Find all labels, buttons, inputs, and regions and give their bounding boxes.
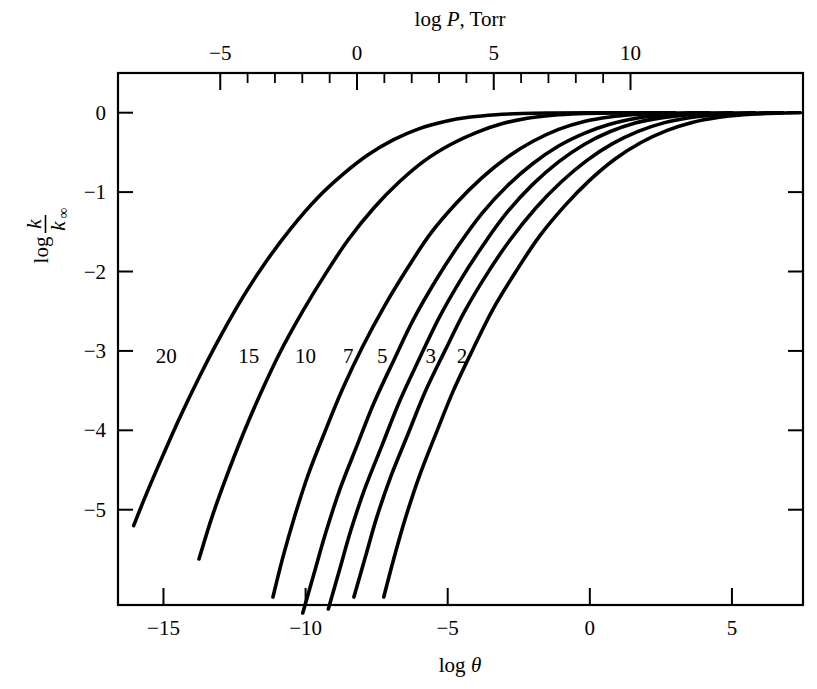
left-axis-ticks xyxy=(118,113,133,510)
curve-15 xyxy=(199,113,675,559)
x-axis-tick-label: −15 xyxy=(147,616,180,640)
x-axis-tick-label: −10 xyxy=(289,616,322,640)
y-axis-tick-labels: 0−1−2−3−4−5 xyxy=(84,101,107,522)
curve-label-3: 3 xyxy=(425,344,436,368)
y-axis-tick-label: 0 xyxy=(96,101,107,125)
y-axis-title-numerator: k xyxy=(22,219,46,229)
curve-3 xyxy=(354,113,783,597)
x-axis-tick-label: −5 xyxy=(437,616,459,640)
chart-plot: −50510 −15−10−505 0−1−2−3−4−5 2015107532… xyxy=(0,0,817,689)
y-axis-title-fraction: k k ∞ xyxy=(22,208,71,233)
x-axis-title: log θ xyxy=(439,653,481,677)
figure-container: −50510 −15−10−505 0−1−2−3−4−5 2015107532… xyxy=(0,0,817,689)
curve-10 xyxy=(273,113,709,597)
y-axis-tick-label: −2 xyxy=(84,260,106,284)
top-axis-tick-label: 10 xyxy=(620,41,641,65)
curve-7 xyxy=(303,113,732,613)
y-axis-title: log k k ∞ xyxy=(22,208,71,264)
top-axis-tick-labels: −50510 xyxy=(209,41,641,65)
top-axis-tick-label: 0 xyxy=(352,41,363,65)
curve-label-20: 20 xyxy=(156,344,177,368)
top-axis-tick-label: 5 xyxy=(489,41,500,65)
top-axis-ticks xyxy=(220,73,630,90)
y-axis-tick-label: −5 xyxy=(84,498,106,522)
curve-label-7: 7 xyxy=(343,344,354,368)
curve-label-15: 15 xyxy=(238,344,259,368)
y-axis-tick-label: −3 xyxy=(84,339,106,363)
y-axis-title-denominator: k xyxy=(46,221,70,231)
infinity-subscript-icon: ∞ xyxy=(55,208,71,219)
bottom-axis-ticks xyxy=(163,588,731,605)
curve-2 xyxy=(384,113,800,597)
y-axis-tick-label: −1 xyxy=(84,180,106,204)
curve-label-2: 2 xyxy=(457,344,468,368)
top-axis-title: log P, Torr xyxy=(415,7,506,31)
y-axis-title-log: log xyxy=(29,236,53,263)
right-axis-ticks xyxy=(788,113,803,510)
x-axis-tick-label: 0 xyxy=(585,616,596,640)
curve-label-10: 10 xyxy=(295,344,316,368)
curve-label-5: 5 xyxy=(377,344,388,368)
y-axis-tick-label: −4 xyxy=(84,418,107,442)
top-axis-tick-label: −5 xyxy=(209,41,231,65)
x-axis-tick-label: 5 xyxy=(727,616,738,640)
x-axis-tick-labels: −15−10−505 xyxy=(147,616,737,640)
